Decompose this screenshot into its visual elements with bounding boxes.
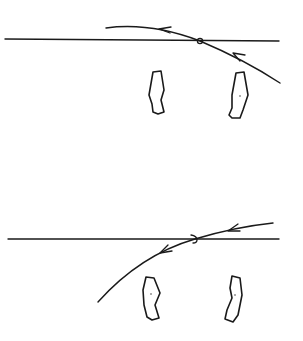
- panel-bottom: [8, 223, 279, 322]
- diagram-canvas: [0, 0, 303, 341]
- blob-shape-left: [149, 71, 164, 114]
- arrowhead-icon: [228, 224, 240, 231]
- blob-center-dot: [150, 293, 151, 294]
- blob-shape-right: [229, 72, 248, 118]
- curved-ray: [98, 223, 273, 302]
- blob-center-dot: [239, 95, 240, 96]
- horizontal-line: [5, 39, 279, 41]
- arrowhead-icon: [160, 245, 172, 253]
- panel-top: [5, 27, 280, 118]
- blob-shape-right: [225, 276, 242, 322]
- curved-ray: [106, 27, 280, 83]
- diagram-svg: [0, 0, 303, 341]
- blob-center-dot: [234, 294, 235, 295]
- blob-shape-left: [143, 277, 160, 320]
